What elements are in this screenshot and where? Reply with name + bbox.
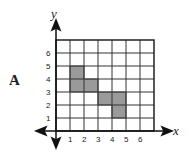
svg-text:5: 5 xyxy=(46,62,51,71)
svg-text:4: 4 xyxy=(110,135,115,144)
svg-text:6: 6 xyxy=(46,49,51,58)
svg-text:1: 1 xyxy=(68,135,73,144)
x-axis-left-arrow-icon xyxy=(36,127,46,135)
x-axis-label: x xyxy=(172,123,179,138)
x-axis-right-arrow-icon xyxy=(162,127,172,135)
y-axis-down-arrow-icon xyxy=(52,138,60,148)
y-axis-up-arrow-icon xyxy=(52,20,60,30)
svg-text:1: 1 xyxy=(46,114,51,123)
y-axis-label: y xyxy=(49,6,57,21)
x-tick-labels: 1 2 3 4 5 6 xyxy=(68,135,143,144)
y-axis xyxy=(52,20,60,148)
svg-text:3: 3 xyxy=(96,135,101,144)
svg-text:2: 2 xyxy=(82,135,87,144)
svg-text:5: 5 xyxy=(124,135,129,144)
svg-text:6: 6 xyxy=(138,135,143,144)
svg-text:4: 4 xyxy=(46,75,51,84)
coordinate-grid: 1 2 3 4 5 6 1 2 3 4 5 6 x y xyxy=(0,0,189,156)
svg-text:2: 2 xyxy=(46,101,51,110)
y-tick-labels: 1 2 3 4 5 6 xyxy=(46,49,51,123)
svg-text:3: 3 xyxy=(46,88,51,97)
